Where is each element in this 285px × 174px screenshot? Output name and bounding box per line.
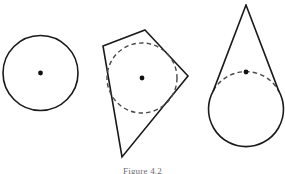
kite-outline	[103, 30, 188, 157]
shape-cone-on-circle	[208, 5, 283, 147]
kite-incircle-center-dot	[140, 76, 145, 81]
circle-center-dot	[38, 71, 43, 76]
geometry-figure-panel: Figure 4.2	[0, 0, 285, 174]
geometry-figure-canvas	[0, 0, 285, 174]
shape-circle-plain	[3, 36, 78, 111]
shape-kite-with-incircle	[103, 30, 188, 157]
cone-circle-center-dot	[244, 70, 249, 75]
figure-caption: Figure 4.2	[0, 166, 285, 174]
